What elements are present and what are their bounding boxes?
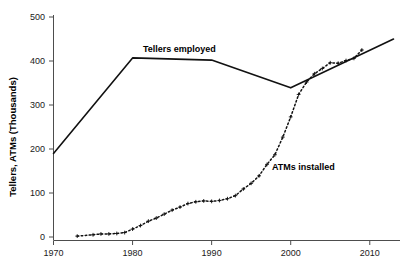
y-tick-label: 0: [40, 232, 45, 242]
y-tick-label: 200: [30, 144, 45, 154]
x-tick-label: 2000: [281, 248, 301, 258]
series-label-atms-installed: ATMs installed: [272, 162, 335, 172]
series-label-tellers-employed: Tellers employed: [143, 44, 216, 54]
y-tick-label: 300: [30, 100, 45, 110]
x-tick-label: 2010: [360, 248, 380, 258]
x-tick-label: 1980: [123, 248, 143, 258]
y-axis-ticks: 0100200300400500: [30, 12, 54, 242]
series-tellers-employed: [54, 39, 394, 153]
atm-data-point-markers: [75, 48, 363, 238]
y-tick-label: 400: [30, 56, 45, 66]
x-tick-label: 1990: [202, 248, 222, 258]
series-atms-installed: [77, 50, 362, 236]
line-chart: 0100200300400500 19701980199020002010 Te…: [0, 0, 409, 275]
y-tick-label: 100: [30, 188, 45, 198]
chart-container: 0100200300400500 19701980199020002010 Te…: [0, 0, 409, 275]
x-axis-ticks: 19701980199020002010: [43, 241, 379, 259]
y-tick-label: 500: [30, 12, 45, 22]
y-axis-title: Tellers, ATMs (Thousands): [7, 77, 18, 197]
x-tick-label: 1970: [43, 248, 63, 258]
axes: [54, 15, 401, 241]
